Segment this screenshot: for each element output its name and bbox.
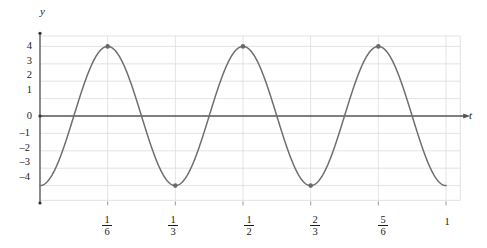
fraction-numerator: 1: [168, 214, 177, 226]
y-tick-label-neg-1: –1: [12, 128, 30, 139]
fraction-denominator: 6: [378, 226, 387, 237]
y-tick-label-3: 3: [14, 56, 32, 67]
x-tick-label-5-6: 5 6: [363, 214, 403, 237]
fraction-numerator: 1: [244, 214, 253, 226]
fraction-1-3: 1 3: [168, 214, 177, 237]
grid-lines: [40, 36, 460, 200]
sine-wave-chart-figure: y t 4 3 2 1 0 –1 –2 –3 –4 1 6 1 3 1 2 2 …: [0, 0, 487, 248]
fraction-denominator: 3: [168, 226, 177, 237]
chart-plot-area: [0, 0, 487, 248]
x-tick-label-1-2: 1 2: [229, 214, 269, 237]
fraction-2-3: 2 3: [310, 214, 319, 237]
x-tick-label-2-3: 2 3: [295, 214, 335, 237]
y-tick-label-4: 4: [14, 41, 32, 52]
y-tick-label-1: 1: [14, 85, 32, 96]
t-axis-label: t: [469, 110, 472, 121]
fraction-numerator: 5: [378, 214, 387, 226]
y-tick-label-neg-2: –2: [12, 143, 30, 154]
fraction-5-6: 5 6: [378, 214, 387, 237]
fraction-numerator: 2: [310, 214, 319, 226]
y-axis-label: y: [40, 6, 45, 17]
y-tick-label-2: 2: [14, 70, 32, 81]
x-tick-label-1-6: 1 6: [87, 214, 127, 237]
axis-ticks: [108, 201, 446, 205]
fraction-denominator: 3: [310, 226, 319, 237]
y-tick-label-0: 0: [14, 111, 32, 122]
y-tick-label-neg-4: –4: [12, 172, 30, 183]
fraction-1-6: 1 6: [102, 214, 111, 237]
fraction-denominator: 2: [244, 226, 253, 237]
fraction-numerator: 1: [102, 214, 111, 226]
x-tick-label-1: 1: [427, 217, 467, 228]
y-tick-label-neg-3: –3: [12, 157, 30, 168]
fraction-denominator: 6: [102, 226, 111, 237]
fraction-1-2: 1 2: [244, 214, 253, 237]
x-tick-label-1-3: 1 3: [153, 214, 193, 237]
axis-lines: [38, 32, 470, 205]
